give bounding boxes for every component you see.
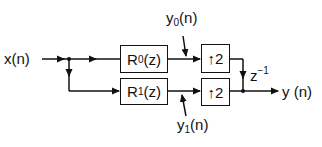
delay-label: z−1 [250,66,269,83]
output-label: y (n) [282,84,312,99]
up-arrow-icon: ↑ [208,50,216,67]
polyphase-diagram: x(n) R0(z) R1(z) ↑2 ↑2 y0(n) y1(n) z−1 y… [0,0,322,147]
upsampler-block-1: ↑2 [201,78,230,106]
filter-arg: (z) [143,51,161,68]
filter-name: R [127,83,138,100]
filter-arg: (z) [143,83,161,100]
signal-lines [0,0,322,147]
delay-base: z [250,67,258,84]
upsample-factor: 2 [215,50,223,67]
input-label: x(n) [4,51,30,66]
signal-arg: (n) [179,9,197,26]
signal-arg: (n) [190,116,208,133]
delay-exponent: −1 [258,65,269,76]
upsampler-block-0: ↑2 [201,44,230,73]
filter-block-r0: R0(z) [120,45,168,73]
filter-block-r1: R1(z) [120,78,168,105]
y0-label: y0(n) [166,10,197,28]
upsample-factor: 2 [215,84,223,101]
signal-name: y [166,9,174,26]
up-arrow-icon: ↑ [208,84,216,101]
signal-name: y [177,116,185,133]
filter-name: R [127,51,138,68]
y1-label: y1(n) [177,117,208,135]
